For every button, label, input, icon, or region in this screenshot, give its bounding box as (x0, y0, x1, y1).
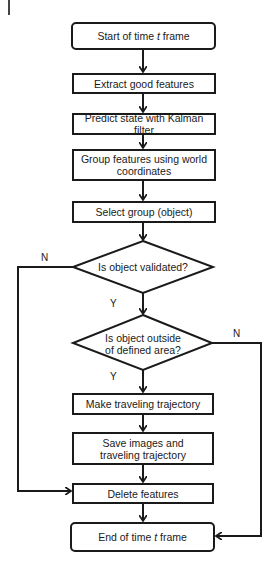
outside-yes-label: Y (110, 371, 117, 382)
end-label-post: frame (157, 531, 187, 543)
select-label: Select group (object) (96, 206, 193, 218)
outside-no-label: N (233, 328, 240, 339)
delete-node: Delete features (72, 483, 214, 504)
save-label: Save images and traveling trajectory (76, 437, 210, 461)
outside-label-line2: of defined area? (105, 344, 181, 356)
outside-label-line1: Is object outside (105, 332, 181, 344)
start-node: Start of time t frame (71, 22, 216, 50)
delete-label: Delete features (107, 488, 178, 500)
extract-label: Extract good features (94, 78, 194, 90)
validated-yes-label: Y (110, 298, 117, 309)
select-node: Select group (object) (72, 201, 216, 223)
predict-node: Predict state with Kalman filter (72, 113, 216, 135)
validated-label: Is object validated? (98, 261, 188, 273)
make-node: Make traveling trajectory (72, 393, 214, 415)
start-label-pre: Start of time (97, 30, 157, 42)
extract-node: Extract good features (72, 73, 216, 94)
outside-decision: Is object outside of defined area? (83, 331, 203, 357)
make-label: Make traveling trajectory (86, 398, 200, 410)
group-node: Group features using world coordinates (72, 149, 216, 181)
group-label: Group features using world coordinates (76, 153, 212, 177)
end-label-pre: End of time (98, 531, 154, 543)
predict-label: Predict state with Kalman filter (76, 112, 212, 136)
validated-no-label: N (41, 252, 48, 263)
end-node: End of time t frame (70, 522, 215, 552)
validated-decision: Is object validated? (83, 259, 203, 275)
start-label-post: frame (160, 30, 190, 42)
save-node: Save images and traveling trajectory (72, 432, 214, 465)
